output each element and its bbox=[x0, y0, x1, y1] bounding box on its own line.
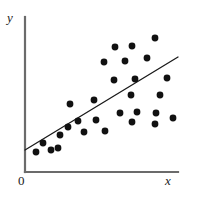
data-point bbox=[132, 76, 139, 83]
data-point bbox=[75, 118, 82, 125]
data-point bbox=[128, 92, 135, 99]
origin-label: 0 bbox=[18, 174, 25, 187]
data-point bbox=[93, 117, 100, 124]
data-point bbox=[102, 128, 109, 135]
data-point bbox=[170, 115, 177, 122]
x-axis-label: x bbox=[165, 174, 171, 187]
data-point bbox=[33, 149, 40, 156]
y-axis-label: y bbox=[7, 11, 13, 24]
data-point bbox=[144, 55, 151, 62]
plot-canvas bbox=[0, 0, 199, 197]
data-point bbox=[117, 110, 124, 117]
regression-line bbox=[25, 57, 178, 150]
data-point bbox=[67, 101, 74, 108]
data-point bbox=[91, 97, 98, 104]
data-point bbox=[81, 129, 88, 136]
data-point bbox=[40, 140, 47, 147]
data-point bbox=[122, 58, 129, 65]
data-point bbox=[134, 109, 141, 116]
data-point bbox=[65, 124, 72, 131]
data-point bbox=[129, 43, 136, 50]
data-point bbox=[152, 121, 159, 128]
data-point bbox=[101, 59, 108, 66]
data-point bbox=[48, 147, 55, 154]
data-point bbox=[129, 119, 136, 126]
data-points bbox=[33, 35, 177, 156]
data-point bbox=[152, 35, 159, 42]
data-point bbox=[153, 110, 160, 117]
fitted-trend-line bbox=[25, 57, 178, 150]
data-point bbox=[164, 75, 171, 82]
data-point bbox=[55, 145, 62, 152]
scatter-plot-figure: y x 0 bbox=[0, 0, 199, 197]
data-point bbox=[112, 44, 119, 51]
data-point bbox=[157, 92, 164, 99]
data-point bbox=[57, 132, 64, 139]
data-point bbox=[111, 77, 118, 84]
